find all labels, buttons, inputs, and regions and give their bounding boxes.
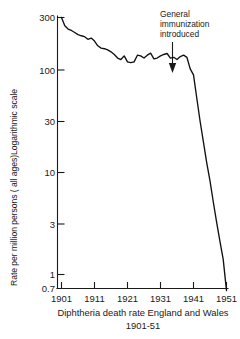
- annotation-line-1: General: [160, 9, 190, 19]
- y-tick-label-10: 10: [44, 167, 55, 178]
- chart-caption-line-2: 1901-51: [126, 320, 160, 331]
- immunization-annotation: General immunization introduced: [160, 9, 210, 73]
- x-tick-label-1941: 1941: [183, 293, 204, 304]
- x-tick-label-1921: 1921: [117, 293, 138, 304]
- y-tick-label-30: 30: [44, 116, 55, 127]
- chart-caption-line-1: Diphtheria death rate England and Wales: [57, 307, 228, 318]
- y-tick-label-100: 100: [39, 65, 55, 76]
- y-tick-label-1: 1: [50, 269, 55, 280]
- y-tick-label-300: 300: [39, 12, 55, 23]
- diphtheria-rate-line: [62, 18, 227, 291]
- y-tick-label-0.7: 0.7: [42, 283, 55, 294]
- y-tick-label-3: 3: [50, 219, 55, 230]
- x-tick-label-1911: 1911: [84, 293, 104, 304]
- x-tick-label-1901: 1901: [51, 293, 72, 304]
- annotation-line-3: introduced: [160, 29, 199, 39]
- x-tick-label-1951: 1951: [216, 293, 237, 304]
- chart-canvas: 300 100 30 10 3 1 0.7 1901 1911 1921 193…: [0, 0, 240, 339]
- y-axis-ticks: [58, 18, 65, 275]
- x-tick-label-1931: 1931: [150, 293, 171, 304]
- diphtheria-death-rate-chart: 300 100 30 10 3 1 0.7 1901 1911 1921 193…: [0, 0, 240, 339]
- y-axis-title: Rate per million persons ( all ages)Loga…: [9, 89, 19, 286]
- annotation-line-2: immunization: [160, 19, 210, 29]
- x-axis-ticks: [62, 282, 227, 289]
- annotation-arrow-head: [169, 63, 176, 73]
